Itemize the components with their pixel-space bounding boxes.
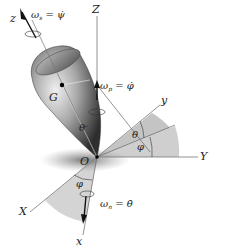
spin-equation: ωs = ψ̇ <box>31 10 65 21</box>
X-axis-label: X <box>19 206 27 217</box>
z-axis-label: z <box>10 13 16 24</box>
center-of-mass-label: G <box>49 92 58 103</box>
theta-label-plane: θ <box>132 130 138 140</box>
Y-axis-label: Y <box>200 151 207 162</box>
spinning-top <box>31 44 100 157</box>
origin-label: O <box>80 156 89 167</box>
precession-equation: ωp = φ̇ <box>100 81 134 92</box>
phi-label-x: φ <box>76 179 83 189</box>
center-of-mass-dot <box>60 83 64 87</box>
Z-axis-label: Z <box>92 4 100 15</box>
y-axis-label: y <box>161 95 167 106</box>
diagram-graphics <box>0 0 230 250</box>
x-axis-label: x <box>76 236 82 247</box>
phi-label-y: φ <box>137 142 144 152</box>
origin-dot <box>95 155 99 159</box>
euler-angle-diagram: Z Y X z y x G O θ θ φ φ ωs = ψ̇ ωp = φ̇ … <box>0 0 230 250</box>
theta-label-vertical: θ <box>79 123 85 133</box>
nutation-equation: ωn = θ̇ <box>100 199 133 210</box>
